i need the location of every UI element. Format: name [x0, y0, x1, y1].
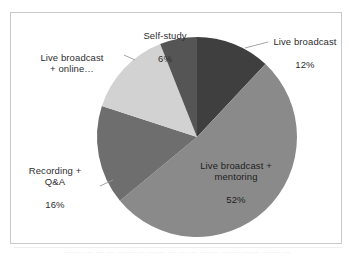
scan-bleed-rule: [14, 247, 342, 248]
slice-label-live-broadcast-online: Live broadcast + online…: [24, 40, 120, 86]
slice-label-live-broadcast-online-name: Live broadcast + online…: [24, 52, 120, 75]
slice-label-live-broadcast-value: 12%: [262, 59, 348, 71]
pie-chart-screenshot: — —— ———— ——— ————— —— ———— ——— —— Self-…: [0, 0, 356, 262]
slice-label-recording-qa: Recording + Q&A 16%: [14, 153, 96, 222]
slice-label-live-broadcast-mentoring-name: Live broadcast + mentoring: [186, 160, 286, 183]
slice-label-self-study-value: 6%: [130, 53, 200, 65]
scan-bleed-bottom: ——— —— ————— ——— —— ———— ———: [0, 247, 356, 256]
slice-label-live-broadcast-mentoring: Live broadcast + mentoring 52%: [186, 148, 286, 217]
slice-label-recording-qa-name: Recording + Q&A: [14, 165, 96, 188]
slice-label-self-study-name: Self-study: [130, 30, 200, 42]
slice-label-live-broadcast: Live broadcast 12%: [262, 24, 348, 82]
slice-label-recording-qa-value: 16%: [14, 199, 96, 211]
slice-label-self-study: Self-study 6%: [130, 18, 200, 76]
slice-label-live-broadcast-name: Live broadcast: [262, 36, 348, 48]
slice-label-live-broadcast-mentoring-value: 52%: [186, 194, 286, 206]
